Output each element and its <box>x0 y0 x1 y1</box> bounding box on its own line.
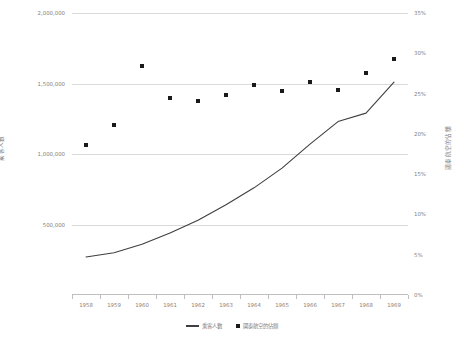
x-axis-tick-label: 1968 <box>359 302 373 308</box>
x-axis-tick-label: 1962 <box>191 302 205 308</box>
gridline <box>72 154 408 155</box>
data-point-marker <box>84 143 88 147</box>
square-swatch-icon <box>236 324 240 328</box>
x-axis-tick <box>184 295 185 299</box>
data-point-marker <box>252 83 256 87</box>
data-point-marker <box>196 99 200 103</box>
y-axis-left-tick-label: 1,500,000 <box>0 81 70 87</box>
chart-container: 乘客人數 國泰航空的佔額 乘客人數 國泰航空的佔額 500,0001,000,0… <box>0 0 464 340</box>
legend-item-passengers[interactable]: 乘客人數 <box>186 322 222 330</box>
x-axis-tick-label: 1964 <box>247 302 261 308</box>
x-axis-tick <box>156 295 157 299</box>
y-axis-left-title: 乘客人數 <box>0 118 5 178</box>
y-axis-right-tick-label: 20% <box>414 131 454 137</box>
x-axis-tick-label: 1959 <box>107 302 121 308</box>
legend-item-share[interactable]: 國泰航空的佔額 <box>236 322 278 330</box>
x-axis-tick <box>240 295 241 299</box>
chart-legend: 乘客人數 國泰航空的佔額 <box>0 322 464 330</box>
y-axis-right-tick-label: 30% <box>414 50 454 56</box>
x-axis-tick-label: 1958 <box>79 302 93 308</box>
y-axis-left-tick-label: 500,000 <box>0 222 70 228</box>
x-axis-tick <box>324 295 325 299</box>
x-axis-tick <box>212 295 213 299</box>
plot-area <box>72 13 408 295</box>
data-point-marker <box>392 57 396 61</box>
gridline <box>72 225 408 226</box>
x-axis-tick-label: 1961 <box>163 302 177 308</box>
x-axis-tick <box>268 295 269 299</box>
x-axis-tick <box>408 295 409 299</box>
x-axis-tick <box>72 295 73 299</box>
line-swatch-icon <box>186 325 199 326</box>
y-axis-right-tick-label: 5% <box>414 252 454 258</box>
y-axis-right-tick-label: 10% <box>414 211 454 217</box>
y-axis-left-tick-label: 2,000,000 <box>0 10 70 16</box>
data-point-marker <box>364 71 368 75</box>
x-axis-tick-label: 1967 <box>331 302 345 308</box>
x-axis-tick-label: 1963 <box>219 302 233 308</box>
data-point-marker <box>140 64 144 68</box>
x-axis-tick <box>100 295 101 299</box>
gridline <box>72 84 408 85</box>
gridline <box>72 13 408 14</box>
x-axis-tick-label: 1960 <box>135 302 149 308</box>
x-axis-tick <box>128 295 129 299</box>
x-axis-tick <box>296 295 297 299</box>
x-axis-tick <box>380 295 381 299</box>
y-axis-right-tick-label: 35% <box>414 10 454 16</box>
data-point-marker <box>308 80 312 84</box>
y-axis-right-tick-label: 25% <box>414 91 454 97</box>
legend-label-share: 國泰航空的佔額 <box>243 322 278 330</box>
legend-label-passengers: 乘客人數 <box>202 322 222 330</box>
x-axis-tick-label: 1966 <box>303 302 317 308</box>
data-point-marker <box>112 123 116 127</box>
data-point-marker <box>280 89 284 93</box>
y-axis-right-tick-label: 0% <box>414 292 454 298</box>
y-axis-right-tick-label: 15% <box>414 171 454 177</box>
y-axis-left-tick-label: 1,000,000 <box>0 151 70 157</box>
x-axis-tick <box>352 295 353 299</box>
data-point-marker <box>168 96 172 100</box>
y-axis-right-title: 國泰航空的佔額 <box>444 118 452 178</box>
x-axis-tick-label: 1969 <box>387 302 401 308</box>
data-point-marker <box>336 88 340 92</box>
data-point-marker <box>224 93 228 97</box>
x-axis-tick-label: 1965 <box>275 302 289 308</box>
